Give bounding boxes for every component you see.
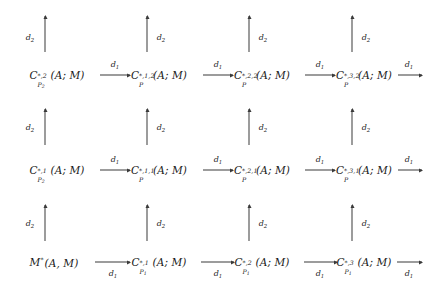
- object-r1c0: C*,1P2(A; M): [29, 165, 84, 176]
- vertical-arrow-c1-mid: [147, 109, 148, 145]
- horizontal-arrow-label-r0-c1c2: d1: [214, 60, 223, 71]
- horizontal-arrow-label-r1-c1c2: d1: [214, 155, 223, 166]
- horizontal-arrow-r1-c2c3: [305, 170, 335, 171]
- vertical-arrow-c3-bot: [352, 205, 353, 241]
- vertical-arrow-label-c3-bot: d2: [362, 219, 371, 230]
- object-r2c2: C*,2P1(A; M): [234, 257, 289, 268]
- horizontal-arrow-r1-c1c2: [203, 170, 233, 171]
- object-r2c1: C*,1P1(A; M): [131, 257, 186, 268]
- horizontal-arrow-r2-c1c2: [201, 262, 234, 263]
- vertical-arrow-label-c1-top: d2: [157, 33, 166, 44]
- object-r0c1: C*,1,2P(A; M): [131, 70, 187, 81]
- object-r1c3: C*,3,1P(A; M): [336, 165, 392, 176]
- horizontal-arrow-r0-c1c2: [203, 75, 233, 76]
- object-r0c0: C*,2P2(A; M): [29, 70, 84, 81]
- horizontal-arrow-label-r0-c0c1: d1: [111, 60, 120, 71]
- horizontal-arrow-label-r2-c1c2: d1: [214, 269, 223, 280]
- vertical-arrow-c0-top: [45, 16, 46, 52]
- horizontal-arrow-label-r0-c3out: d1: [405, 60, 414, 71]
- horizontal-arrow-label-r1-c0c1: d1: [111, 155, 120, 166]
- object-r2c0: M*(A, M): [30, 257, 79, 268]
- horizontal-arrow-label-r2-c2c3: d1: [316, 269, 325, 280]
- horizontal-arrow-r0-c3out: [398, 75, 422, 76]
- vertical-arrow-c2-mid: [249, 109, 250, 145]
- horizontal-arrow-r0-c0c1: [100, 75, 130, 76]
- horizontal-arrow-label-r1-c3out: d1: [405, 155, 414, 166]
- horizontal-arrow-r1-c3out: [398, 170, 422, 171]
- vertical-arrow-c3-mid: [352, 109, 353, 145]
- vertical-arrow-c3-top: [352, 16, 353, 52]
- horizontal-arrow-r2-c2c3: [304, 262, 337, 263]
- object-r2c3: C*,3P1(A; M): [336, 257, 391, 268]
- vertical-arrow-c1-bot: [147, 205, 148, 241]
- horizontal-arrow-r1-c0c1: [100, 170, 130, 171]
- vertical-arrow-label-c0-mid: d2: [26, 123, 35, 134]
- object-r0c3: C*,3,2P(A; M): [336, 70, 392, 81]
- vertical-arrow-label-c2-mid: d2: [259, 123, 268, 134]
- vertical-arrow-c1-top: [147, 16, 148, 52]
- vertical-arrow-label-c2-bot: d2: [259, 219, 268, 230]
- horizontal-arrow-label-r1-c2c3: d1: [316, 155, 325, 166]
- commutative-diagram: d2 d2 d2 d2 d2 d2 d2 d2 d2 d2 d2 d2 C*,2…: [0, 0, 426, 287]
- vertical-arrow-c0-bot: [45, 205, 46, 241]
- vertical-arrow-label-c2-top: d2: [259, 33, 268, 44]
- horizontal-arrow-label-r0-c2c3: d1: [316, 60, 325, 71]
- object-r0c2: C*,2,2P(A; M): [234, 70, 290, 81]
- vertical-arrow-label-c0-top: d2: [26, 33, 35, 44]
- vertical-arrow-c2-bot: [249, 205, 250, 241]
- vertical-arrow-label-c3-top: d2: [362, 33, 371, 44]
- vertical-arrow-c0-mid: [45, 109, 46, 145]
- vertical-arrow-label-c1-bot: d2: [157, 219, 166, 230]
- object-r1c2: C*,2,1P(A; M): [234, 165, 290, 176]
- vertical-arrow-label-c3-mid: d2: [362, 123, 371, 134]
- horizontal-arrow-r2-c0c1: [95, 262, 130, 263]
- vertical-arrow-label-c0-bot: d2: [26, 219, 35, 230]
- vertical-arrow-c2-top: [249, 16, 250, 52]
- horizontal-arrow-label-r2-c3out: d1: [405, 269, 414, 280]
- horizontal-arrow-label-r2-c0c1: d1: [109, 269, 118, 280]
- horizontal-arrow-r2-c3out: [397, 262, 422, 263]
- object-r1c1: C*,1,1P(A; M): [131, 165, 187, 176]
- vertical-arrow-label-c1-mid: d2: [157, 123, 166, 134]
- horizontal-arrow-r0-c2c3: [305, 75, 335, 76]
